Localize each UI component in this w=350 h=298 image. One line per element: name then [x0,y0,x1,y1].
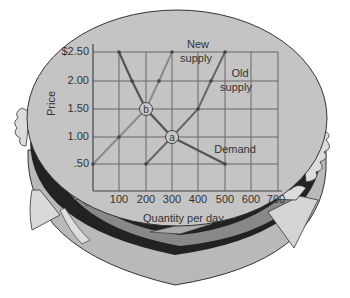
x-axis-title: Quantity per day [143,213,224,224]
y-axis-title: Price [46,91,57,116]
hamburger-chart-illustration: $2.50 2.00 1.50 1.00 .50 Price 100 200 3… [0,0,350,298]
equilibrium-point-a: a [165,130,179,144]
old-supply-label-line2: supply [216,82,256,93]
new-supply-label-line1: New [180,39,216,50]
illustration-svg [0,0,350,298]
y-tick-label: 1.00 [49,131,89,142]
equilibrium-point-b: b [139,102,153,116]
old-supply-label-line1: Old [222,68,258,79]
x-tick-label: 400 [183,194,213,205]
y-tick-label: .50 [49,158,89,169]
demand-label: Demand [212,144,258,155]
x-tick-label: 700 [261,194,291,205]
y-tick-label: 2.00 [49,75,89,86]
new-supply-label-line2: supply [176,53,216,64]
x-tick-label: 100 [104,194,134,205]
y-tick-label: $2.50 [49,46,89,57]
